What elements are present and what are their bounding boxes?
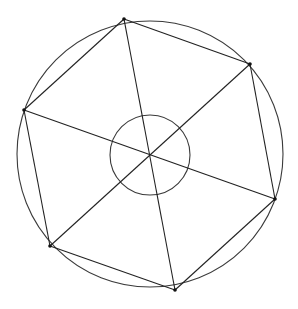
vertex-point	[273, 197, 277, 201]
hexagon-edge	[24, 19, 124, 110]
hexagon-diagram	[0, 0, 298, 309]
hexagon-edge	[50, 246, 175, 290]
vertex-point	[248, 62, 252, 66]
hexagon-edge	[24, 110, 50, 246]
vertex-point	[122, 17, 126, 21]
vertex-point	[173, 288, 177, 292]
vertex-point	[22, 108, 26, 112]
diameter-line	[24, 110, 275, 199]
hexagon-edge	[175, 199, 275, 290]
outer-circle	[17, 21, 283, 287]
vertex-point	[48, 244, 52, 248]
hexagon-edge	[250, 64, 275, 199]
